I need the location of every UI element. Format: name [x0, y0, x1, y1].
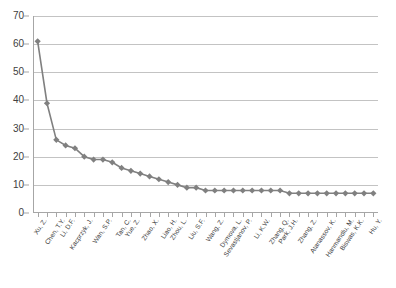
- y-tick-mark: [24, 100, 29, 101]
- data-point-marker: [156, 176, 162, 182]
- x-tick-label: Liu, S.F.: [187, 217, 206, 241]
- data-point-marker: [305, 190, 311, 196]
- data-point-marker: [268, 187, 274, 193]
- y-tick-mark: [24, 72, 29, 73]
- data-point-marker: [324, 190, 330, 196]
- y-tick-mark: [24, 184, 29, 185]
- x-tick-label: Wan, S.P.: [91, 217, 113, 245]
- data-point-marker: [249, 187, 255, 193]
- y-tick-label: 10: [13, 180, 24, 190]
- y-tick-mark: [24, 128, 29, 129]
- x-tick-label: Hu, Y.: [368, 217, 384, 235]
- data-point-marker: [165, 179, 171, 185]
- data-point-marker: [174, 182, 180, 188]
- data-point-marker: [193, 185, 199, 191]
- y-axis: 010203040506070: [0, 16, 29, 213]
- data-point-marker: [128, 168, 134, 174]
- data-point-marker: [277, 187, 283, 193]
- data-point-marker: [286, 190, 292, 196]
- data-point-marker: [212, 187, 218, 193]
- y-tick-label: 30: [13, 124, 24, 134]
- data-point-marker: [230, 187, 236, 193]
- data-point-marker: [146, 173, 152, 179]
- data-point-marker: [100, 156, 106, 162]
- x-tick-label: Li, K.W.: [253, 217, 272, 240]
- data-point-marker: [202, 187, 208, 193]
- series-svg: [33, 16, 378, 213]
- chart-container: 010203040506070 Xu, Z.Chen, T.Y.Li, D.F.…: [0, 0, 396, 288]
- data-point-marker: [240, 187, 246, 193]
- data-point-marker: [314, 190, 320, 196]
- data-point-marker: [352, 190, 358, 196]
- data-point-marker: [184, 185, 190, 191]
- y-tick-label: 20: [13, 152, 24, 162]
- data-point-marker: [137, 171, 143, 177]
- x-tick-label: Xu, Z.: [32, 217, 48, 236]
- data-point-marker: [44, 100, 50, 106]
- data-point-marker: [258, 187, 264, 193]
- data-point-marker: [221, 187, 227, 193]
- y-tick-label: 50: [13, 67, 24, 77]
- x-tick-label: Zhao, X.: [140, 217, 160, 242]
- series-line: [38, 41, 374, 193]
- data-point-marker: [333, 190, 339, 196]
- data-point-marker: [91, 156, 97, 162]
- y-tick-label: 40: [13, 95, 24, 105]
- y-tick-label: 70: [13, 11, 24, 21]
- data-point-marker: [296, 190, 302, 196]
- data-point-marker: [370, 190, 376, 196]
- x-axis-labels: Xu, Z.Chen, T.Y.Li, D.F.Kacprzyk, J.Wan,…: [33, 217, 378, 288]
- y-tick-mark: [24, 16, 29, 17]
- data-point-marker: [35, 38, 41, 44]
- data-point-marker: [361, 190, 367, 196]
- y-tick-mark: [24, 156, 29, 157]
- y-tick-mark: [24, 213, 29, 214]
- data-point-marker: [342, 190, 348, 196]
- y-tick-label: 60: [13, 39, 24, 49]
- y-tick-mark: [24, 44, 29, 45]
- data-series-layer: [33, 16, 378, 213]
